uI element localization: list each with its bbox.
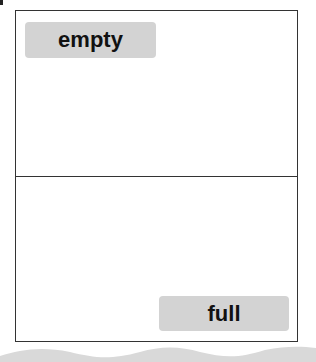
empty-label-text: empty: [58, 27, 123, 53]
empty-label: empty: [25, 22, 156, 58]
wave-decoration: [0, 346, 316, 362]
full-label: full: [159, 296, 289, 331]
section-divider: [15, 176, 298, 177]
corner-mark: [0, 0, 3, 5]
full-label-text: full: [208, 301, 241, 327]
